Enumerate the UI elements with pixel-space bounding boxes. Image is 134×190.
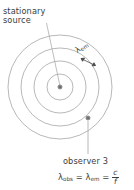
wavefront-diagram: stationary source λem observer 3 λobs = … xyxy=(0,0,134,190)
stationary-source-label-line2: source xyxy=(3,16,45,25)
source-dot-core xyxy=(59,86,61,88)
arrow-head-inner xyxy=(81,58,85,61)
wavelength-equation: λobs = λem = c f xyxy=(58,169,119,186)
formula-equals-1: = xyxy=(76,172,83,182)
formula-fraction-c-over-f: c f xyxy=(112,169,118,186)
formula-lambda-obs-subscript: obs xyxy=(63,176,73,182)
formula-lambda-em-subscript: em xyxy=(91,176,100,182)
wavelength-arrow xyxy=(81,58,96,66)
formula-equals-2: = xyxy=(102,172,109,182)
observer-label: observer 3 xyxy=(63,157,108,166)
formula-denominator-f: f xyxy=(112,178,118,186)
source-leader-line xyxy=(47,23,61,86)
observer-dot-core xyxy=(87,117,89,119)
formula-numerator-c: c xyxy=(112,169,118,177)
stationary-source-label: stationary source xyxy=(3,7,45,24)
observer-label-text: observer 3 xyxy=(63,156,108,166)
